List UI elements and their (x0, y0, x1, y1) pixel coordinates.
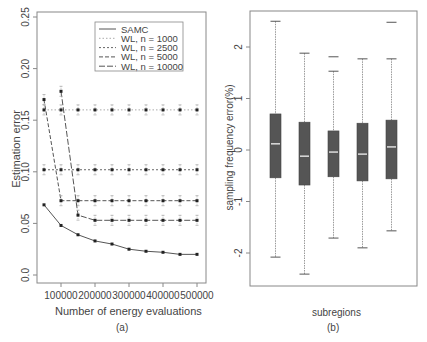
data-point (43, 98, 46, 101)
data-point (128, 168, 131, 171)
panel-a-xlabel: Number of energy evaluations (55, 305, 202, 317)
x-tick-label: 500000 (180, 290, 214, 301)
x-tick-label: 300000 (112, 290, 146, 301)
y-tick-label: 0.0 (20, 268, 31, 282)
data-point (145, 199, 148, 202)
data-point (145, 168, 148, 171)
data-point (196, 253, 199, 256)
panel-a-caption: (a) (116, 322, 128, 333)
iqr-box (299, 122, 310, 185)
box-4 (357, 59, 368, 248)
legend: SAMCWL, n = 1000WL, n = 2500WL, n = 5000… (95, 22, 183, 72)
box-1 (270, 21, 281, 257)
box-5 (386, 22, 397, 231)
data-point (145, 250, 148, 253)
y-tick-label: 0.25 (20, 7, 31, 27)
data-point (162, 199, 165, 202)
data-point (60, 199, 63, 202)
iqr-box (386, 120, 397, 179)
data-point (179, 199, 182, 202)
data-point (128, 219, 131, 222)
panel-a-line-chart: 0.00.050.100.150.200.2510000020000030000… (20, 7, 214, 301)
data-point (94, 219, 97, 222)
data-point (94, 199, 97, 202)
data-point (145, 219, 148, 222)
data-point (196, 108, 199, 111)
data-point (179, 108, 182, 111)
series-line (44, 100, 197, 201)
data-point (196, 199, 199, 202)
box-2 (299, 53, 310, 274)
data-point (179, 253, 182, 256)
iqr-box (270, 114, 281, 178)
data-point (196, 168, 199, 171)
data-point (77, 108, 80, 111)
legend-label: WL, n = 10000 (121, 61, 183, 72)
data-point (77, 199, 80, 202)
iqr-box (328, 131, 339, 177)
data-point (60, 108, 63, 111)
y-tick-label: -1 (233, 197, 244, 206)
data-point (77, 168, 80, 171)
data-point (60, 168, 63, 171)
data-point (162, 219, 165, 222)
data-point (162, 168, 165, 171)
x-tick-label: 100000 (44, 290, 78, 301)
data-point (111, 243, 114, 246)
data-point (128, 108, 131, 111)
y-tick-label: 2 (233, 44, 244, 50)
data-point (111, 219, 114, 222)
data-point (43, 168, 46, 171)
iqr-box (357, 123, 368, 181)
data-point (179, 219, 182, 222)
data-point (111, 168, 114, 171)
y-tick-label: 0.05 (20, 213, 31, 233)
y-tick-label: 0.20 (20, 58, 31, 78)
data-point (60, 90, 63, 93)
data-point (60, 224, 63, 227)
data-point (128, 248, 131, 251)
y-tick-label: 1 (233, 95, 244, 101)
data-point (162, 108, 165, 111)
data-point (94, 168, 97, 171)
data-point (77, 214, 80, 217)
panel-b-box-plot: -2-1012 (233, 11, 417, 286)
figure: 0.00.050.100.150.200.2510000020000030000… (0, 0, 427, 342)
data-point (111, 199, 114, 202)
box-3 (328, 57, 339, 238)
data-point (179, 168, 182, 171)
x-tick-label: 200000 (78, 290, 112, 301)
x-tick-label: 400000 (146, 290, 180, 301)
data-point (162, 251, 165, 254)
data-point (94, 108, 97, 111)
panel-b-xlabel: subregions (312, 307, 361, 318)
panel-b-caption: (b) (327, 322, 339, 333)
data-point (128, 199, 131, 202)
data-point (43, 203, 46, 206)
data-point (43, 108, 46, 111)
data-point (94, 239, 97, 242)
data-point (111, 108, 114, 111)
panel-b-ylabel: sampling frequency error(%) (224, 84, 235, 210)
y-tick-label: 0 (233, 147, 244, 153)
data-point (196, 219, 199, 222)
data-point (145, 108, 148, 111)
series-line (44, 205, 197, 255)
panel-a-ylabel: Estimation error (10, 110, 22, 188)
y-tick-label: -2 (233, 248, 244, 257)
data-point (77, 233, 80, 236)
